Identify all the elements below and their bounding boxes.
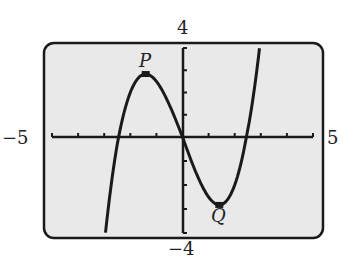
- graphing-calculator-screen: [0, 0, 359, 277]
- ymin-label: −4: [168, 240, 195, 258]
- xmax-label: 5: [327, 129, 338, 147]
- point-p-label: P: [139, 52, 151, 70]
- ymax-label: 4: [177, 19, 188, 37]
- point-q-label: Q: [211, 207, 226, 225]
- xmin-label: −5: [2, 129, 29, 147]
